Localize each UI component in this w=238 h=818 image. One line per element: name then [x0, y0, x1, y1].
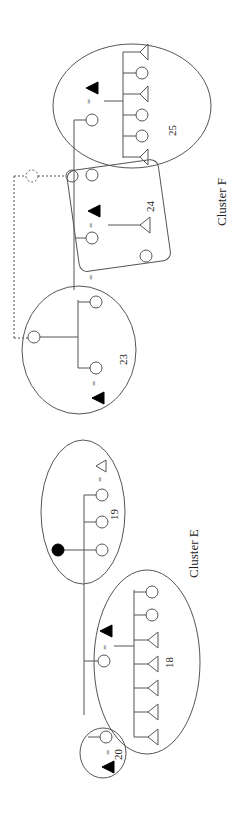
group-label-24: 24	[144, 201, 156, 213]
female-icon	[96, 489, 108, 501]
group-24-box	[66, 159, 171, 273]
male-filled-icon	[92, 392, 104, 404]
cluster-f-label: Cluster F	[214, 178, 229, 226]
group-label-25: 25	[166, 125, 178, 137]
female-icon	[90, 296, 102, 308]
male-icon	[140, 217, 150, 233]
marriage-mark: =	[95, 477, 105, 482]
marriage-mark: =	[86, 275, 96, 280]
marriage-mark: =	[89, 381, 99, 386]
marriage-mark: =	[86, 223, 96, 228]
cluster-e-label: Cluster E	[186, 529, 201, 578]
female-icon	[136, 130, 148, 142]
kinship-diagram: = = = = = = = 25 24 23 19 18 20 Cluster …	[0, 0, 238, 818]
group-label-19: 19	[108, 509, 120, 521]
group-label-20: 20	[112, 749, 124, 761]
male-icon	[96, 460, 106, 472]
male-icon	[140, 86, 148, 102]
hypothetical-person-icon	[26, 170, 38, 182]
male-icon	[148, 729, 158, 745]
female-icon	[140, 250, 152, 262]
marriage-mark: =	[84, 99, 94, 104]
female-icon	[86, 169, 98, 181]
female-icon	[86, 114, 98, 126]
male-icon	[148, 704, 158, 720]
marriage-mark: =	[100, 645, 110, 650]
female-icon	[86, 232, 98, 244]
deceased-female-icon	[52, 544, 64, 556]
female-icon	[98, 655, 110, 667]
group-label-18: 18	[163, 657, 175, 669]
male-filled-icon	[102, 761, 114, 773]
group-label-23: 23	[117, 354, 129, 366]
male-filled-icon	[100, 625, 112, 637]
male-icon	[148, 680, 158, 696]
group-23-ellipse	[22, 286, 136, 414]
female-icon	[146, 586, 158, 598]
male-icon	[140, 149, 148, 165]
female-icon	[146, 609, 158, 621]
female-icon	[136, 109, 148, 121]
female-icon	[100, 731, 112, 743]
male-icon	[148, 656, 158, 672]
female-icon	[96, 544, 108, 556]
male-filled-icon	[88, 205, 100, 217]
male-icon	[148, 632, 158, 648]
female-icon	[28, 331, 40, 343]
male-icon	[140, 44, 148, 60]
group-25-ellipse	[53, 44, 211, 168]
female-icon	[96, 516, 108, 528]
female-icon	[136, 67, 148, 79]
female-icon	[90, 362, 102, 374]
male-filled-icon	[86, 82, 98, 94]
